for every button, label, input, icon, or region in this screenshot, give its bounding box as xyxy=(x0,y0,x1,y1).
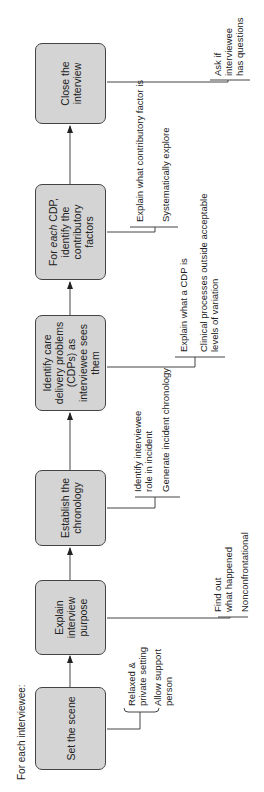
note-clinical-processes: Clinical processes outside acceptable le… xyxy=(198,194,220,352)
step-establish-chronology: Establish the chronology xyxy=(35,470,106,546)
flow-diagram: For each interviewee: Set the scene Expl… xyxy=(0,0,264,792)
note-explain-contributory: Explain what contributory factor is xyxy=(134,80,145,222)
step-identify-cdps: Identify care delivery problems (CDPs) a… xyxy=(35,315,106,411)
step-set-the-scene: Set the scene xyxy=(35,687,106,770)
note-relaxed-setting: Relaxed & private setting xyxy=(126,647,148,706)
note-systematically-explore: Systematically explore xyxy=(160,127,171,222)
step-contributory-factors: For each CDP, identify the contributory … xyxy=(35,184,106,280)
diagram-heading: For each interviewee: xyxy=(16,684,27,780)
note-support-person: Allow support person xyxy=(152,649,174,706)
note-identify-role: Identify interviewee role in incident xyxy=(132,411,154,492)
note-explain-cdp: Explain what a CDP is xyxy=(178,258,189,352)
note-generate-chronology: Generate incident chronology xyxy=(160,368,171,492)
step-explain-purpose: Explain interview purpose xyxy=(35,580,106,655)
note-find-out: Find out what happened xyxy=(212,547,234,612)
note-nonconfrontational: Nonconfrontational xyxy=(239,532,250,612)
note-ask-questions: Ask if interviewee has questions xyxy=(212,17,245,76)
step-close-interview: Close the interview xyxy=(35,43,106,124)
